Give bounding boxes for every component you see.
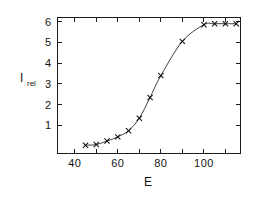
y-axis-title: I <box>20 71 23 85</box>
y-tick-label-3: 3 <box>45 78 52 90</box>
data-curve <box>85 23 236 145</box>
y-tick-label-2: 2 <box>45 99 52 111</box>
y-axis-ticks <box>58 22 241 126</box>
data-markers <box>83 21 239 148</box>
plot-frame-box <box>58 18 241 154</box>
series-line <box>85 23 236 145</box>
data-point-7 <box>158 73 163 78</box>
x-tick-label-80: 80 <box>154 157 167 169</box>
data-point-4 <box>126 128 131 133</box>
data-point-2 <box>104 138 109 143</box>
chart-canvas: 406080100 123456 E I rel <box>0 0 256 198</box>
data-point-3 <box>115 134 120 139</box>
y-tick-label-5: 5 <box>45 36 52 48</box>
data-point-9 <box>201 22 206 27</box>
x-axis-tick-labels: 406080100 <box>68 157 213 169</box>
plot-frame <box>58 18 241 154</box>
x-axis-title: E <box>144 175 152 189</box>
x-tick-label-60: 60 <box>111 157 124 169</box>
data-point-6 <box>147 95 152 100</box>
y-tick-label-4: 4 <box>45 57 52 69</box>
data-point-8 <box>180 39 185 44</box>
x-axis-ticks <box>75 18 226 154</box>
y-axis-tick-labels: 123456 <box>45 16 52 132</box>
x-tick-label-40: 40 <box>68 157 81 169</box>
x-tick-label-100: 100 <box>194 157 214 169</box>
y-axis-title-subscript: rel <box>27 79 36 88</box>
y-tick-label-6: 6 <box>45 16 52 28</box>
y-tick-label-1: 1 <box>45 119 52 131</box>
data-point-5 <box>137 116 142 121</box>
chart-figure: 406080100 123456 E I rel <box>0 0 256 198</box>
